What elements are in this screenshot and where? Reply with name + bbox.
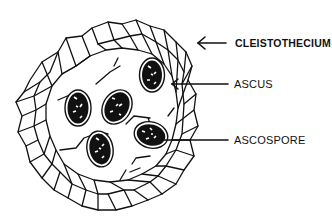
label-ascospore: ASCOSPORE xyxy=(234,134,306,146)
ascus-2 xyxy=(96,84,138,129)
ascus-3 xyxy=(140,58,165,92)
diagram-canvas xyxy=(0,0,332,224)
asci xyxy=(65,58,171,169)
ascus-1 xyxy=(65,90,91,126)
label-ascus: ASCUS xyxy=(234,78,273,90)
label-cleistothecium: CLEISTOTHECIUM xyxy=(235,37,331,49)
label-arrows xyxy=(162,37,228,140)
arrow-ascus xyxy=(172,79,228,89)
cleistothecium-diagram: CLEISTOTHECIUM ASCUS ASCOSPORE xyxy=(0,0,332,224)
ascus-5 xyxy=(131,118,171,152)
ascus-4 xyxy=(84,129,116,169)
arrow-cleistothecium xyxy=(198,37,226,49)
